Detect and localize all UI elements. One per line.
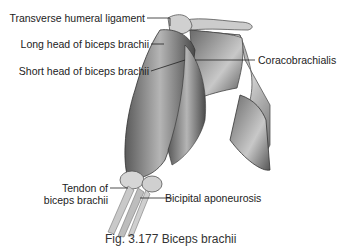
label-bicipital-aponeurosis: Bicipital aponeurosis [165, 192, 261, 204]
figure-caption: Fig. 3.177 Biceps brachii [105, 232, 236, 246]
label-tendon-line2: biceps brachii [0, 194, 108, 206]
label-tendon-line1: Tendon of [0, 182, 108, 194]
label-coracobrachialis: Coracobrachialis [258, 54, 336, 66]
label-short-head-biceps: Short head of biceps brachii [0, 65, 149, 77]
label-long-head-biceps: Long head of biceps brachii [0, 38, 149, 50]
label-transverse-humeral-ligament: Transverse humeral ligament [0, 12, 145, 24]
